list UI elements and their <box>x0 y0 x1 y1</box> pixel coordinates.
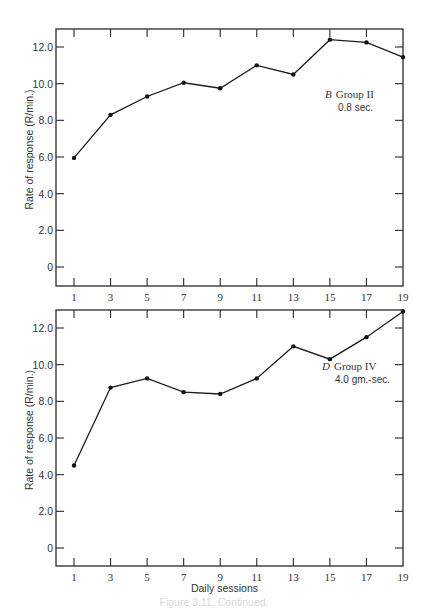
y-tick-label: 0 <box>47 542 53 554</box>
y-tick-label: 10.0 <box>33 359 54 371</box>
y-tick-label: 4.0 <box>38 469 53 481</box>
data-point <box>145 376 149 380</box>
y-axis-title: Rate of response (R/min.) <box>23 89 35 209</box>
x-tick-label: 7 <box>181 291 187 303</box>
x-tick-label: 19 <box>398 571 410 583</box>
group-detail: 4.0 gm.-sec. <box>335 374 390 385</box>
x-tick-label: 13 <box>288 571 300 583</box>
x-tick-label: 17 <box>361 571 373 583</box>
y-tick-label: 6.0 <box>38 432 53 444</box>
x-tick-label: 3 <box>108 291 114 303</box>
y-tick-label: 2.0 <box>38 505 53 517</box>
y-tick-label: 4.0 <box>38 188 53 200</box>
x-tick-label: 1 <box>71 571 77 583</box>
group-annotation: BGroup II <box>325 88 374 100</box>
y-tick-label: 10.0 <box>33 78 54 90</box>
y-axis-title: Rate of response (R/min.) <box>23 370 35 490</box>
data-point <box>72 156 76 160</box>
data-point <box>291 72 295 76</box>
panel-letter: D <box>321 360 330 372</box>
plot-frame <box>56 310 403 566</box>
y-tick-label: 2.0 <box>38 224 53 236</box>
y-tick-label: 0 <box>47 261 53 273</box>
x-tick-label: 11 <box>251 291 262 303</box>
data-point <box>108 385 112 389</box>
data-point <box>145 94 149 98</box>
x-tick-label: 5 <box>144 291 150 303</box>
data-point <box>255 376 259 380</box>
x-tick-label: 1 <box>71 291 77 303</box>
x-tick-label: 5 <box>144 571 150 583</box>
group-annotation: DGroup IV <box>321 360 376 372</box>
y-tick-label: 12.0 <box>33 41 54 53</box>
data-point <box>72 463 76 467</box>
group-label: Group IV <box>334 360 377 372</box>
x-tick-label: 15 <box>324 571 336 583</box>
chart-panel-top: 13579111315171902.04.06.08.010.012.0Rate… <box>23 29 409 303</box>
x-tick-label: 15 <box>324 291 336 303</box>
data-point <box>291 344 295 348</box>
data-point <box>218 392 222 396</box>
x-tick-label: 19 <box>398 291 410 303</box>
plot-frame <box>56 29 403 286</box>
data-point <box>401 55 405 59</box>
data-point <box>401 309 405 313</box>
data-point <box>181 81 185 85</box>
data-point <box>255 63 259 67</box>
group-label: Group II <box>336 88 375 100</box>
data-point <box>364 335 368 339</box>
x-tick-label: 13 <box>288 291 300 303</box>
data-point <box>181 390 185 394</box>
x-tick-label: 9 <box>217 291 223 303</box>
x-tick-label: 3 <box>108 571 114 583</box>
x-tick-label: 7 <box>181 571 187 583</box>
data-point <box>328 37 332 41</box>
x-tick-label: 17 <box>361 291 373 303</box>
data-point <box>364 40 368 44</box>
group-detail: 0.8 sec. <box>338 102 373 113</box>
series-line <box>74 312 403 466</box>
y-tick-label: 6.0 <box>38 151 53 163</box>
chart-panel-bottom: 13579111315171902.04.06.08.010.012.0Rate… <box>23 309 409 594</box>
y-tick-label: 12.0 <box>33 322 54 334</box>
figure: 13579111315171902.04.06.08.010.012.0Rate… <box>0 0 429 608</box>
y-tick-label: 8.0 <box>38 395 53 407</box>
y-tick-label: 8.0 <box>38 114 53 126</box>
panel-letter: B <box>325 88 332 100</box>
x-axis-title: Daily sessions <box>191 582 258 594</box>
data-point <box>108 113 112 117</box>
data-point <box>218 86 222 90</box>
figure-caption: Figure 3.11. Continued. <box>160 596 269 608</box>
